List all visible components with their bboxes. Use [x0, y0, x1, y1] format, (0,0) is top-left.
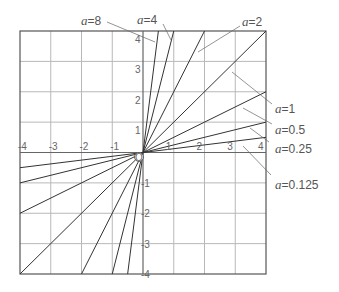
x-tick-label: 3: [227, 141, 233, 152]
x-tick-label: -4: [18, 141, 27, 152]
y-tick-label: 1: [135, 125, 141, 136]
label-a-4: a=4: [137, 12, 158, 27]
x-tick-label: -2: [80, 141, 89, 152]
y-tick-label: 2: [135, 95, 141, 106]
label-a-0.5: a=0.5: [275, 122, 306, 137]
x-tick-label: 1: [166, 141, 172, 152]
y-tick-label: -4: [141, 269, 150, 280]
y-tick-label: -2: [141, 208, 150, 219]
x-tick-label: -1: [110, 141, 119, 152]
y-tick-label: -3: [141, 239, 150, 250]
x-tick-label: 2: [197, 141, 203, 152]
label-a-8: a=8: [81, 13, 102, 28]
label-a-2: a=2: [242, 14, 263, 29]
origin-marker: O: [135, 152, 144, 163]
x-tick-label: 4: [258, 141, 264, 152]
y-tick-label: 3: [135, 64, 141, 75]
linear-functions-diagram: -4-3-2-112344321-1-2-3-4 O a=8 a=4 a=2 a…: [0, 0, 339, 292]
x-tick-label: -3: [49, 141, 58, 152]
label-a-0.125: a=0.125: [275, 177, 319, 192]
y-tick-label: -1: [141, 178, 150, 189]
label-a-0.25: a=0.25: [275, 141, 312, 156]
label-a-1: a=1: [275, 101, 296, 116]
origin-label: O: [135, 152, 143, 163]
